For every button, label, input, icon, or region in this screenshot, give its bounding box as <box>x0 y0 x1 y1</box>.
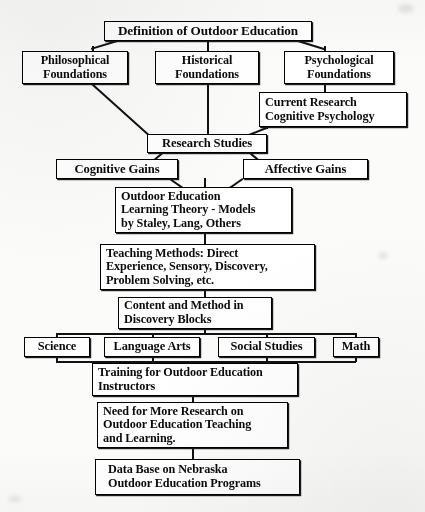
connector-current-research-bar <box>266 127 268 129</box>
node-historical-line-1: Historical <box>156 54 258 68</box>
node-math[interactable]: Math <box>333 337 379 357</box>
node-historical-line-2: Foundations <box>156 68 258 82</box>
node-content-method-line-1: Content and Method in <box>124 299 271 313</box>
node-need-research-line-2: Outdoor Education Teaching <box>103 418 287 432</box>
node-training-line-2: Instructors <box>98 380 297 394</box>
node-content-method-line-2: Discovery Blocks <box>124 313 271 327</box>
node-data-base-line-1: Data Base on Nebraska <box>108 463 299 477</box>
node-learning-theory-line-2: Learning Theory - Models <box>121 203 291 217</box>
node-philosophical-line-2: Foundations <box>23 68 127 82</box>
node-math-line-1: Math <box>334 340 378 354</box>
node-social-studies[interactable]: Social Studies <box>218 337 315 357</box>
node-definition-line-1: Definition of Outdoor Education <box>105 24 311 39</box>
node-psychological-line-2: Foundations <box>285 68 393 82</box>
node-social-studies-line-1: Social Studies <box>219 340 314 354</box>
scan-smudge <box>398 4 414 13</box>
node-definition[interactable]: Definition of Outdoor Education <box>104 21 312 41</box>
node-research-studies-line-1: Research Studies <box>148 136 266 150</box>
node-affective-gains[interactable]: Affective Gains <box>243 159 368 179</box>
node-teaching-methods[interactable]: Teaching Methods: Direct Experience, Sen… <box>100 244 315 290</box>
node-teaching-methods-line-2: Experience, Sensory, Discovery, <box>106 260 314 274</box>
node-cognitive-gains-line-1: Cognitive Gains <box>57 162 177 176</box>
node-learning-theory-line-1: Outdoor Education <box>121 190 291 204</box>
node-content-and-method[interactable]: Content and Method in Discovery Blocks <box>118 297 272 329</box>
flowchart-canvas: Definition of Outdoor Education Philosop… <box>0 0 425 512</box>
scan-smudge <box>8 496 22 502</box>
node-need-research-line-1: Need for More Research on <box>103 405 287 419</box>
connector-subject-bus-bar <box>56 333 356 335</box>
node-science[interactable]: Science <box>24 337 90 357</box>
node-need-research[interactable]: Need for More Research on Outdoor Educat… <box>97 402 288 448</box>
node-psychological-line-1: Psychological <box>285 54 393 68</box>
connector-definition-philosophical <box>91 40 118 50</box>
connector-definition-psychological <box>298 40 325 50</box>
node-philosophical-foundations[interactable]: Philosophical Foundations <box>22 51 128 84</box>
node-language-arts[interactable]: Language Arts <box>104 337 200 357</box>
node-current-research-line-2: Cognitive Psychology <box>265 110 406 124</box>
node-training[interactable]: Training for Outdoor Education Instructo… <box>92 363 298 396</box>
node-psychological-foundations[interactable]: Psychological Foundations <box>284 51 394 84</box>
scan-smudge <box>378 252 388 259</box>
node-language-arts-line-1: Language Arts <box>105 340 199 354</box>
node-data-base[interactable]: Data Base on Nebraska Outdoor Education … <box>95 459 300 495</box>
node-current-research[interactable]: Current Research Cognitive Psychology <box>259 92 407 127</box>
node-teaching-methods-line-1: Teaching Methods: Direct <box>106 247 314 261</box>
node-science-line-1: Science <box>25 340 89 354</box>
node-teaching-methods-line-3: Problem Solving, etc. <box>106 274 314 288</box>
node-training-line-1: Training for Outdoor Education <box>98 366 297 380</box>
node-learning-theory[interactable]: Outdoor Education Learning Theory - Mode… <box>115 187 292 233</box>
node-research-studies[interactable]: Research Studies <box>147 134 267 153</box>
node-current-research-line-1: Current Research <box>265 96 406 110</box>
node-philosophical-line-1: Philosophical <box>23 54 127 68</box>
node-cognitive-gains[interactable]: Cognitive Gains <box>56 159 178 179</box>
node-historical-foundations[interactable]: Historical Foundations <box>155 51 259 84</box>
node-learning-theory-line-3: by Staley, Lang, Others <box>121 217 291 231</box>
node-affective-gains-line-1: Affective Gains <box>244 162 367 176</box>
connector-philosophical-research <box>91 83 149 135</box>
node-need-research-line-3: and Learning. <box>103 432 287 446</box>
connector-historical-research <box>207 83 209 135</box>
node-data-base-line-2: Outdoor Education Programs <box>108 477 299 491</box>
